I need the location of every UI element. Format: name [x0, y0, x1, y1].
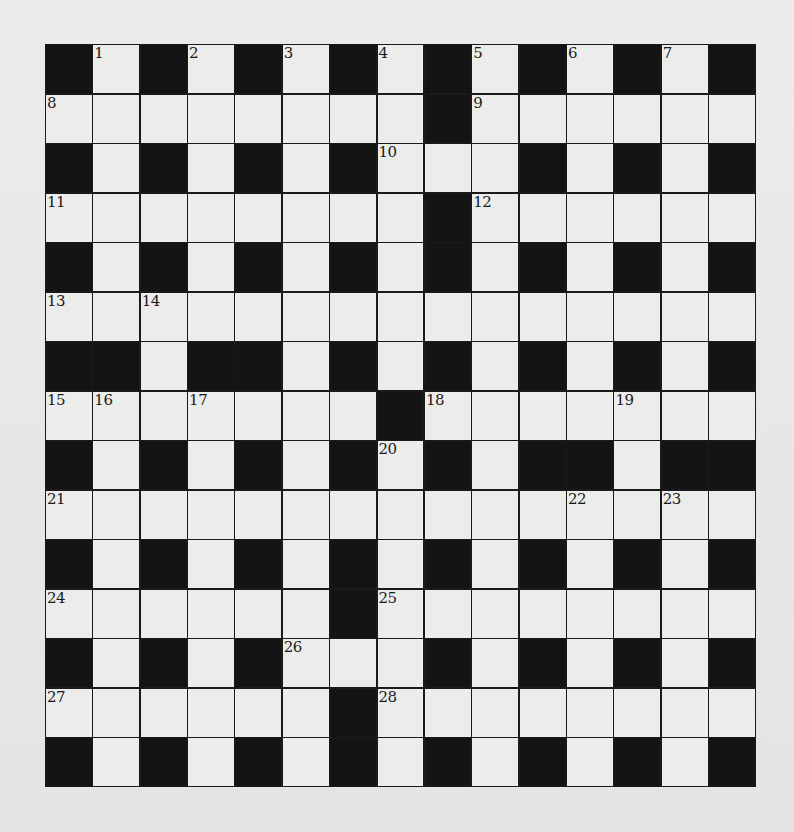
answer-cell[interactable]: [567, 194, 613, 242]
answer-cell[interactable]: 16: [93, 392, 139, 440]
answer-cell[interactable]: [93, 293, 139, 341]
answer-cell[interactable]: 14: [141, 293, 187, 341]
answer-cell[interactable]: [93, 441, 139, 489]
answer-cell[interactable]: 28: [378, 689, 424, 737]
answer-cell[interactable]: [330, 392, 376, 440]
answer-cell[interactable]: [567, 738, 613, 786]
answer-cell[interactable]: 18: [425, 392, 471, 440]
answer-cell[interactable]: [283, 540, 329, 588]
answer-cell[interactable]: 26: [283, 639, 329, 687]
answer-cell[interactable]: [283, 738, 329, 786]
answer-cell[interactable]: [188, 95, 234, 143]
answer-cell[interactable]: [662, 144, 708, 192]
answer-cell[interactable]: [283, 491, 329, 539]
answer-cell[interactable]: [425, 491, 471, 539]
answer-cell[interactable]: [567, 342, 613, 390]
answer-cell[interactable]: 8: [46, 95, 92, 143]
answer-cell[interactable]: 20: [378, 441, 424, 489]
answer-cell[interactable]: 12: [472, 194, 518, 242]
answer-cell[interactable]: [93, 95, 139, 143]
answer-cell[interactable]: [141, 392, 187, 440]
answer-cell[interactable]: 17: [188, 392, 234, 440]
answer-cell[interactable]: [614, 95, 660, 143]
answer-cell[interactable]: [188, 441, 234, 489]
answer-cell[interactable]: 19: [614, 392, 660, 440]
answer-cell[interactable]: [141, 689, 187, 737]
answer-cell[interactable]: [614, 491, 660, 539]
answer-cell[interactable]: [472, 144, 518, 192]
answer-cell[interactable]: [141, 95, 187, 143]
answer-cell[interactable]: [709, 392, 755, 440]
answer-cell[interactable]: [662, 590, 708, 638]
answer-cell[interactable]: [709, 689, 755, 737]
answer-cell[interactable]: [662, 194, 708, 242]
answer-cell[interactable]: [425, 689, 471, 737]
answer-cell[interactable]: [188, 689, 234, 737]
answer-cell[interactable]: [283, 689, 329, 737]
answer-cell[interactable]: [330, 293, 376, 341]
answer-cell[interactable]: [472, 590, 518, 638]
answer-cell[interactable]: [283, 194, 329, 242]
answer-cell[interactable]: [330, 95, 376, 143]
answer-cell[interactable]: [472, 243, 518, 291]
answer-cell[interactable]: [378, 243, 424, 291]
answer-cell[interactable]: [141, 590, 187, 638]
answer-cell[interactable]: [472, 342, 518, 390]
answer-cell[interactable]: [188, 540, 234, 588]
answer-cell[interactable]: [378, 639, 424, 687]
answer-cell[interactable]: [567, 243, 613, 291]
answer-cell[interactable]: [235, 689, 281, 737]
answer-cell[interactable]: [520, 95, 566, 143]
answer-cell[interactable]: 4: [378, 45, 424, 93]
answer-cell[interactable]: 25: [378, 590, 424, 638]
answer-cell[interactable]: [235, 590, 281, 638]
answer-cell[interactable]: [472, 540, 518, 588]
answer-cell[interactable]: [709, 194, 755, 242]
answer-cell[interactable]: [235, 392, 281, 440]
answer-cell[interactable]: [93, 738, 139, 786]
answer-cell[interactable]: 6: [567, 45, 613, 93]
answer-cell[interactable]: [709, 491, 755, 539]
answer-cell[interactable]: [378, 491, 424, 539]
answer-cell[interactable]: [93, 194, 139, 242]
answer-cell[interactable]: 13: [46, 293, 92, 341]
answer-cell[interactable]: [330, 194, 376, 242]
answer-cell[interactable]: [93, 144, 139, 192]
answer-cell[interactable]: [662, 392, 708, 440]
answer-cell[interactable]: [330, 639, 376, 687]
answer-cell[interactable]: [378, 738, 424, 786]
answer-cell[interactable]: 21: [46, 491, 92, 539]
answer-cell[interactable]: [472, 491, 518, 539]
answer-cell[interactable]: 1: [93, 45, 139, 93]
answer-cell[interactable]: [93, 491, 139, 539]
answer-cell[interactable]: [378, 342, 424, 390]
answer-cell[interactable]: [188, 590, 234, 638]
answer-cell[interactable]: [188, 639, 234, 687]
answer-cell[interactable]: [662, 95, 708, 143]
answer-cell[interactable]: 11: [46, 194, 92, 242]
answer-cell[interactable]: 9: [472, 95, 518, 143]
answer-cell[interactable]: [520, 590, 566, 638]
answer-cell[interactable]: [709, 590, 755, 638]
answer-cell[interactable]: [283, 243, 329, 291]
answer-cell[interactable]: [235, 491, 281, 539]
answer-cell[interactable]: [662, 342, 708, 390]
answer-cell[interactable]: [378, 95, 424, 143]
answer-cell[interactable]: 23: [662, 491, 708, 539]
answer-cell[interactable]: [425, 590, 471, 638]
answer-cell[interactable]: [93, 689, 139, 737]
answer-cell[interactable]: [141, 491, 187, 539]
answer-cell[interactable]: [188, 293, 234, 341]
answer-cell[interactable]: 15: [46, 392, 92, 440]
answer-cell[interactable]: [425, 293, 471, 341]
answer-cell[interactable]: [709, 293, 755, 341]
answer-cell[interactable]: [567, 144, 613, 192]
answer-cell[interactable]: [188, 144, 234, 192]
answer-cell[interactable]: [378, 194, 424, 242]
answer-cell[interactable]: [235, 293, 281, 341]
answer-cell[interactable]: [662, 689, 708, 737]
answer-cell[interactable]: [567, 95, 613, 143]
answer-cell[interactable]: 10: [378, 144, 424, 192]
answer-cell[interactable]: [93, 639, 139, 687]
answer-cell[interactable]: [235, 194, 281, 242]
